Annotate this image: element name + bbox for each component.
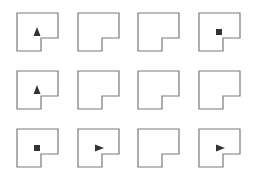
notched-square-cell bbox=[138, 71, 179, 109]
notched-square-cell bbox=[138, 13, 179, 51]
notched-square-cell bbox=[17, 13, 58, 51]
notched-square-outline bbox=[138, 13, 179, 51]
square-icon bbox=[216, 29, 222, 35]
notched-square-cell bbox=[78, 129, 119, 167]
notched-square-cell bbox=[17, 71, 58, 109]
notched-square-outline bbox=[138, 129, 179, 167]
square-icon bbox=[34, 145, 40, 151]
notched-square-outline bbox=[138, 71, 179, 109]
notched-square-outline bbox=[78, 13, 119, 51]
notched-square-cell bbox=[17, 129, 58, 167]
notched-square-cell bbox=[78, 71, 119, 109]
notched-square-outline bbox=[78, 71, 119, 109]
notched-square-cell bbox=[78, 13, 119, 51]
notched-square-cell bbox=[138, 129, 179, 167]
notched-square-cell bbox=[199, 71, 240, 109]
notched-square-outline bbox=[199, 71, 240, 109]
notched-square-cell bbox=[199, 129, 240, 167]
notched-squares-grid bbox=[0, 0, 256, 179]
notched-square-cell bbox=[199, 13, 240, 51]
